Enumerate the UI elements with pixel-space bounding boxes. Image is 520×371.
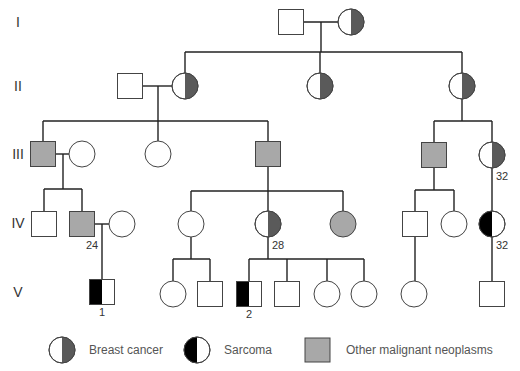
male-unaffected-symbol — [32, 212, 57, 237]
male-unaffected-symbol — [198, 282, 223, 307]
male-unaffected-symbol — [480, 282, 505, 307]
female-breast-cancer-symbol — [307, 73, 333, 99]
male-sarcoma-symbol: 2 — [237, 282, 262, 321]
female-breast-cancer-symbol — [449, 73, 475, 99]
male-other-neoplasm-symbol: 24 — [70, 212, 99, 252]
generation-label: V — [13, 284, 23, 300]
female-unaffected-symbol — [441, 211, 467, 237]
male-unaffected-symbol — [275, 282, 300, 307]
legend-sarcoma-label: Sarcoma — [224, 343, 272, 357]
generation-label: IV — [11, 215, 25, 231]
male-unaffected-symbol — [403, 212, 428, 237]
generation-labels: IIIIIIIVV — [11, 14, 25, 300]
legend-sarcoma-icon — [184, 337, 210, 363]
male-unaffected-symbol — [279, 10, 304, 35]
pedigree-chart: IIIIIIIVV 3224283212 Breast cancer Sarco… — [0, 0, 520, 371]
male-other-neoplasm-symbol — [256, 142, 281, 167]
female-breast-cancer-symbol: 28 — [255, 211, 284, 251]
female-unaffected-symbol — [314, 281, 340, 307]
female-breast-cancer-symbol — [172, 73, 198, 99]
female-unaffected-symbol — [178, 211, 204, 237]
legend-breast-cancer-icon — [49, 337, 75, 363]
male-sarcoma-symbol: 1 — [90, 280, 115, 319]
female-unaffected-symbol — [401, 281, 427, 307]
generation-label: II — [14, 78, 22, 94]
age-label: 32 — [496, 170, 508, 182]
legend-other-neoplasm-label: Other malignant neoplasms — [346, 343, 493, 357]
female-breast-cancer-symbol: 32 — [479, 142, 508, 182]
female-unaffected-symbol — [160, 281, 186, 307]
female-sarcoma-symbol: 32 — [479, 211, 508, 251]
female-unaffected-symbol — [145, 141, 171, 167]
male-other-neoplasm-symbol — [422, 143, 447, 168]
female-other-neoplasm-symbol — [330, 211, 356, 237]
age-label: 28 — [272, 239, 284, 251]
age-label: 32 — [496, 239, 508, 251]
proband-number: 1 — [99, 306, 105, 318]
male-other-neoplasm-symbol — [31, 142, 56, 167]
legend: Breast cancer Sarcoma Other malignant ne… — [49, 337, 493, 363]
female-unaffected-symbol — [69, 141, 95, 167]
generation-label: III — [12, 146, 24, 162]
legend-other-neoplasm-icon — [305, 338, 330, 362]
male-unaffected-symbol — [118, 74, 143, 99]
female-breast-cancer-symbol — [338, 9, 364, 35]
female-unaffected-symbol — [109, 211, 135, 237]
generation-label: I — [16, 14, 20, 30]
legend-breast-cancer-label: Breast cancer — [89, 343, 163, 357]
age-label: 24 — [86, 239, 98, 251]
female-unaffected-symbol — [351, 281, 377, 307]
proband-number: 2 — [246, 308, 252, 320]
